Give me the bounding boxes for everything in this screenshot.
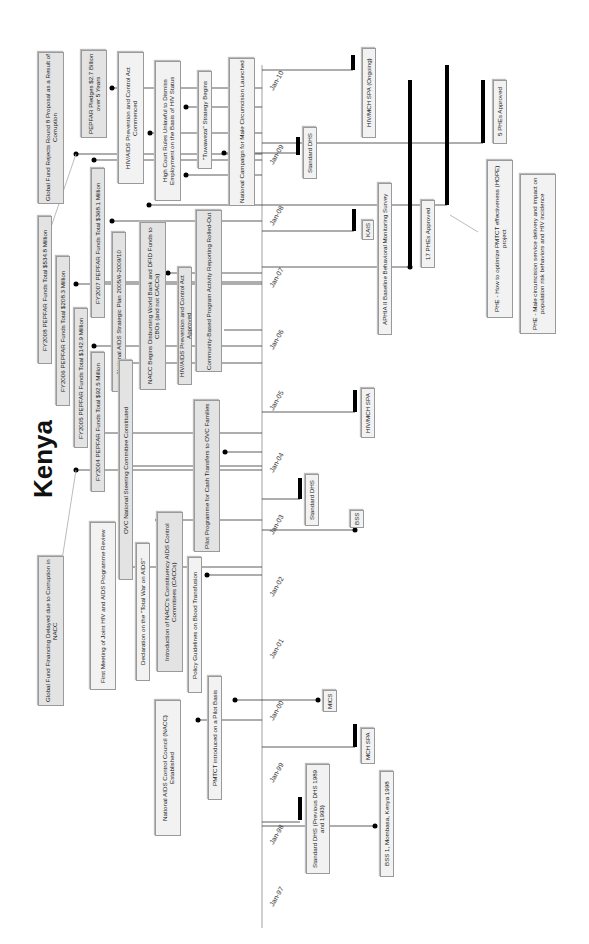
survey-box: MCH SPA (361, 728, 375, 764)
event-box: Introduction of NACC's Constituency AIDS… (157, 512, 183, 672)
event-box: FY2005 PEPFAR Funds Total $142.9 Million (74, 308, 88, 448)
event-box: OVC National Steering Committee Constitu… (119, 360, 133, 580)
survey-box: BSS 1, Mombasa, Kenya 1998 (380, 771, 394, 877)
event-box: Policy Guidelines on Blood Transfusion (188, 557, 202, 693)
survey-box: 5 PHEs Approved (493, 80, 507, 144)
survey-box: PHE - How to optimize PMTCT effectivenes… (487, 160, 513, 318)
survey-box: KAIS (362, 220, 374, 240)
survey-box: HIV/MCH SPA (361, 388, 375, 438)
event-box: PMTCT introduced on a Pilot Basis (208, 676, 222, 800)
event-box: NACC Begins Disbursing World Bank and DF… (140, 222, 166, 390)
event-box: HIV/AIDS Prevention and Control Act Comm… (118, 52, 144, 184)
survey-box: APHIA II Baseline Behavioral Monitoring … (378, 183, 392, 335)
survey-box: MICS (323, 690, 337, 712)
event-box: HIV/AIDS Prevention and Control Act Appr… (178, 267, 192, 385)
survey-box: Standard DHS (305, 474, 319, 526)
event-box: FY2006 PEPFAR Funds Total $208.3 Million (56, 256, 70, 406)
event-box: Pilot Programme for Cash Transfers to OV… (194, 400, 220, 552)
survey-box: 17 PHEs Approved (421, 200, 435, 268)
event-box: High Court Rules Unlawful to Dismiss Emp… (155, 61, 181, 201)
event-box: First Meeting of Joint HIV and AIDS Prog… (90, 522, 116, 690)
event-box: Declaration on the "Total War on AIDS" (136, 543, 150, 681)
event-box: Global Fund Rejects Round 8 Proposal as … (38, 52, 64, 204)
event-box: "Tuwaweza" Strategy Begins (198, 71, 212, 169)
survey-box: Standard DHS (Previous DHS 1989 and 1993… (306, 764, 330, 874)
event-box: Global Fund Financing Delayed due to Cor… (38, 556, 64, 706)
event-box: Community-Based Program Activity Reporti… (196, 210, 222, 372)
page-title: Kenya (28, 420, 59, 498)
event-box: FY2004 PEPFAR Funds Total $92.5 Million (91, 352, 105, 492)
event-box: National AIDS Control Council (NACC) Est… (155, 700, 181, 836)
survey-box: Standard DHS (303, 127, 317, 179)
timeline-diagram: Kenya Jan-10 Jan-09 Jan-08 Jan-07 Jan-06… (0, 0, 589, 944)
event-box: PEPFAR Pledges $2.7 Billion over 5 Years (81, 50, 107, 138)
survey-box: BSS (350, 510, 364, 528)
survey-box: HIV/MCH SPA (Ongoing) (362, 48, 376, 138)
event-box: FY2008 PEPFAR Funds Total $534.8 Million (38, 216, 52, 364)
survey-box: PHE - Male circumcision service delivery… (520, 174, 556, 334)
event-box: National Campaign for Male Circumcision … (229, 58, 255, 206)
event-box: FY2007 PEPFAR Funds Total $368.1 Million (91, 168, 105, 318)
